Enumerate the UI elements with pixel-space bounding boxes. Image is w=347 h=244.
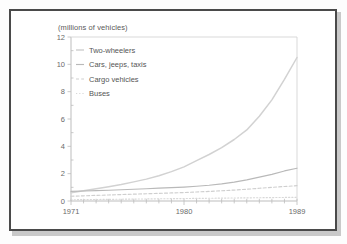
x-tick-label: 1971: [63, 207, 80, 216]
x-tick-label: 1980: [176, 207, 193, 216]
legend-group: Two-wheelersCars, jeeps, taxisCargo vehi…: [76, 46, 147, 98]
legend-label-buses: Buses: [89, 89, 110, 98]
y-tick-label: 4: [61, 142, 65, 151]
figure-root: (millions of vehicles) 024681012 1971198…: [0, 0, 347, 244]
x-tick-group: [71, 199, 297, 205]
y-tick-label: 10: [57, 60, 65, 69]
y-tick-label: 0: [61, 197, 65, 206]
chart-svg: 024681012 197119801989 Two-wheelersCars,…: [0, 0, 347, 244]
y-tick-group: [68, 37, 74, 201]
y-tick-label-group: 024681012: [57, 33, 65, 206]
legend-label-cargo-vehicles: Cargo vehicles: [89, 75, 139, 84]
y-tick-label: 6: [61, 115, 65, 124]
y-tick-label: 2: [61, 169, 65, 178]
x-tick-label: 1989: [289, 207, 306, 216]
legend-label-two-wheelers: Two-wheelers: [89, 46, 136, 55]
y-tick-label: 12: [57, 33, 65, 42]
y-tick-label: 8: [61, 87, 65, 96]
x-tick-label-group: 197119801989: [63, 207, 306, 216]
plot-area: (millions of vehicles) 024681012 1971198…: [0, 0, 347, 244]
legend-label-cars-jeeps-taxis: Cars, jeeps, taxis: [89, 60, 147, 69]
